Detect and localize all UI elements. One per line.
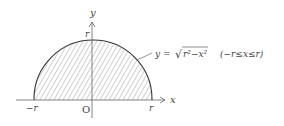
- hatched-region: [34, 41, 152, 100]
- tick-label-pos-r: r: [149, 103, 154, 113]
- x-axis-label: x: [170, 94, 176, 105]
- tick-label-top-r: r: [85, 29, 90, 39]
- origin-label: O: [82, 104, 90, 115]
- y-axis-label: y: [89, 7, 96, 18]
- equation-radicand: r²−x²: [183, 49, 208, 59]
- equation-lhs: y =: [154, 49, 171, 59]
- equation-leader-line: [137, 53, 152, 60]
- curve-equation: y = √ r²−x² (−r≤x≤r): [154, 47, 264, 61]
- sqrt-symbol: √: [175, 48, 183, 61]
- equation-domain: (−r≤x≤r): [220, 49, 264, 59]
- tick-label-neg-r: −r: [26, 103, 39, 113]
- semicircle-diagram: y x O −r r r y = √ r²−x² (−r≤x≤r): [0, 0, 284, 126]
